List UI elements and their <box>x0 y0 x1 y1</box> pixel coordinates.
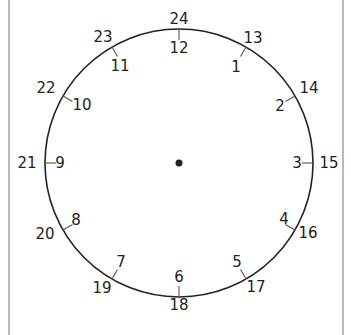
label-19: 19 <box>92 279 111 297</box>
clock-center-dot <box>176 160 183 167</box>
label-9: 9 <box>55 154 65 172</box>
label-2: 2 <box>275 97 285 115</box>
label-10: 10 <box>72 96 91 114</box>
label-11: 11 <box>110 57 129 75</box>
label-13: 13 <box>243 29 262 47</box>
label-5: 5 <box>232 253 242 271</box>
clock-diagram: 24 13 14 15 16 17 18 19 20 21 22 23 12 1… <box>0 0 351 335</box>
label-6: 6 <box>174 268 184 286</box>
label-23: 23 <box>93 28 112 46</box>
label-18: 18 <box>169 296 188 314</box>
label-1: 1 <box>231 58 241 76</box>
label-7: 7 <box>116 253 126 271</box>
label-16: 16 <box>298 224 317 242</box>
label-17: 17 <box>246 278 265 296</box>
label-14: 14 <box>299 79 318 97</box>
label-15: 15 <box>319 154 338 172</box>
label-21: 21 <box>17 154 36 172</box>
label-12: 12 <box>169 39 188 57</box>
tick-10 <box>63 96 73 102</box>
label-22: 22 <box>36 79 55 97</box>
label-24: 24 <box>169 10 188 28</box>
label-4: 4 <box>279 210 289 228</box>
label-3: 3 <box>292 154 302 172</box>
tick-1 <box>241 47 247 57</box>
tick-11 <box>112 47 118 57</box>
tick-2 <box>286 96 296 102</box>
label-20: 20 <box>35 225 54 243</box>
label-8: 8 <box>71 211 81 229</box>
